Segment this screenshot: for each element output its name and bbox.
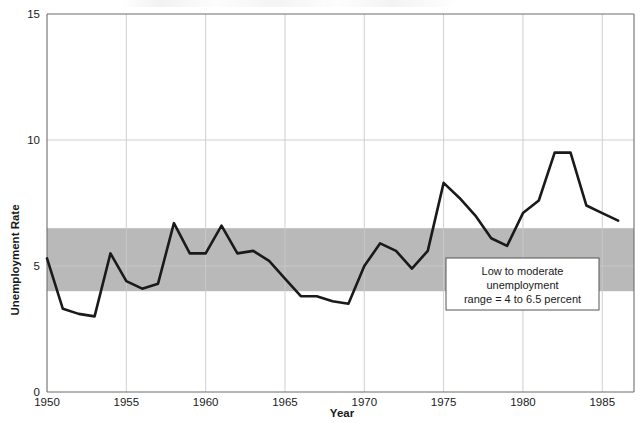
axes — [47, 14, 634, 392]
x-tick-label-1955: 1955 — [114, 396, 140, 408]
band-annotation: Low to moderateunemploymentrange = 4 to … — [446, 258, 599, 310]
y-axis-title: Unemployment Rate — [9, 204, 21, 315]
x-axis-title: Year — [330, 407, 355, 419]
y-tick-label-10: 10 — [27, 134, 40, 146]
scan-artifact-top-edge — [120, 0, 460, 7]
gridlines — [47, 14, 634, 392]
y-tick-labels: 051015 — [27, 8, 40, 398]
unemployment-rate-chart: 051015 19501955196019651970197519801985 … — [0, 0, 640, 430]
x-tick-label-1950: 1950 — [34, 396, 60, 408]
annotation-line-3: range = 4 to 6.5 percent — [464, 293, 581, 305]
y-tick-label-5: 5 — [34, 260, 40, 272]
annotation-line-1: Low to moderate — [482, 265, 564, 277]
y-tick-label-15: 15 — [27, 8, 40, 20]
x-tick-label-1980: 1980 — [510, 396, 536, 408]
chart-canvas: 051015 19501955196019651970197519801985 … — [0, 0, 640, 430]
x-tick-label-1960: 1960 — [193, 396, 219, 408]
x-tick-label-1985: 1985 — [589, 396, 615, 408]
x-tick-labels: 19501955196019651970197519801985 — [34, 396, 615, 408]
annotation-line-2: unemployment — [486, 279, 558, 291]
x-tick-label-1965: 1965 — [272, 396, 298, 408]
x-tick-label-1975: 1975 — [431, 396, 457, 408]
x-tick-label-1970: 1970 — [352, 396, 378, 408]
